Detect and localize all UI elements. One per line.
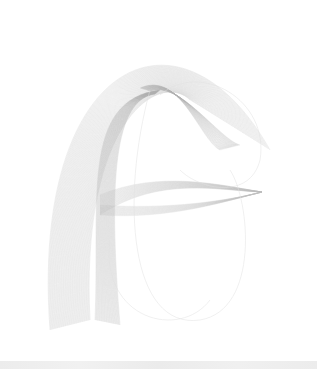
bottom-strip — [0, 361, 317, 369]
line-art-canvas — [0, 0, 317, 361]
